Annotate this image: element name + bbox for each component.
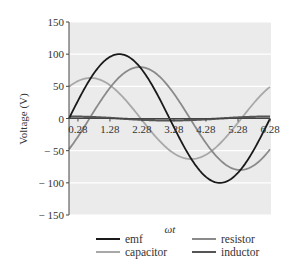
voltage-chart: 150100500− 50− 100− 150 0.281.282.283.28… bbox=[0, 0, 288, 269]
legend-label: capacitor bbox=[125, 246, 167, 258]
y-axis-ticks: 150100500− 50− 100− 150 bbox=[39, 16, 69, 221]
legend-label: resistor bbox=[221, 233, 255, 245]
legend-item-capacitor: capacitor bbox=[96, 246, 167, 258]
y-tick-label: 100 bbox=[48, 48, 65, 60]
legend-label: emf bbox=[125, 233, 143, 245]
x-tick-label: 6.28 bbox=[260, 123, 280, 135]
y-tick-label: 0 bbox=[59, 113, 65, 125]
x-tick-label: 5.28 bbox=[228, 123, 248, 135]
y-tick-label: − 150 bbox=[39, 209, 65, 221]
x-tick-label: 2.28 bbox=[132, 123, 152, 135]
legend-swatch-emf bbox=[96, 238, 120, 240]
legend-label: inductor bbox=[221, 246, 259, 258]
x-tick-label: 0.28 bbox=[68, 123, 88, 135]
x-tick-label: 3.28 bbox=[164, 123, 184, 135]
legend-item-inductor: inductor bbox=[192, 246, 259, 258]
legend-item-emf: emf bbox=[96, 233, 143, 245]
legend-swatch-resistor bbox=[192, 238, 216, 240]
y-tick-label: 50 bbox=[53, 80, 65, 92]
legend-swatch-inductor bbox=[192, 251, 216, 253]
y-tick-label: − 100 bbox=[39, 177, 65, 189]
x-tick-label: 4.28 bbox=[196, 123, 216, 135]
legend-swatch-capacitor bbox=[96, 251, 120, 253]
y-tick-label: − 50 bbox=[44, 145, 64, 157]
y-axis-label: Voltage (V) bbox=[17, 93, 30, 145]
x-tick-label: 1.28 bbox=[100, 123, 120, 135]
x-axis-label: ωt bbox=[165, 223, 177, 235]
y-tick-label: 150 bbox=[48, 16, 65, 28]
legend-item-resistor: resistor bbox=[192, 233, 255, 245]
